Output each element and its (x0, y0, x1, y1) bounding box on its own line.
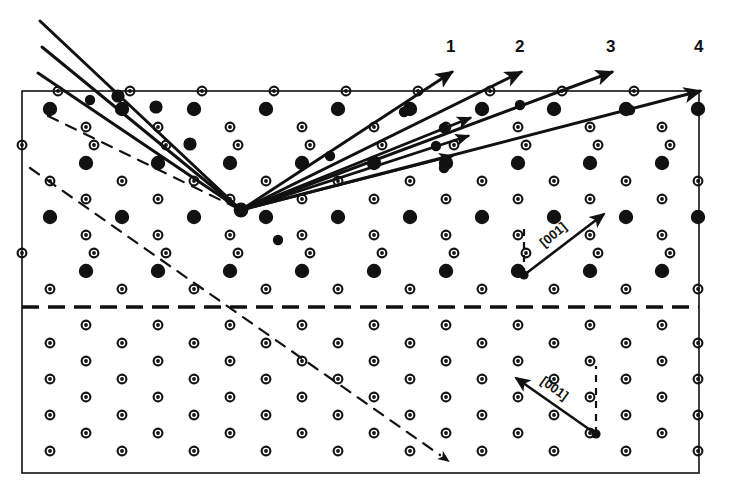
incident-beam-terminus-3 (183, 137, 196, 150)
atom-open-core (156, 359, 160, 363)
atom-open-core (516, 323, 520, 327)
atom-open-core (264, 449, 268, 453)
atom-open-core (452, 251, 456, 255)
atom-open-core (596, 251, 600, 255)
atom-open-core (668, 143, 672, 147)
atom-open-core (264, 413, 268, 417)
atom-open-core (588, 323, 592, 327)
dashed-trace-arrowhead (437, 451, 453, 466)
atom-open-core (228, 395, 232, 399)
atom-open-core (552, 287, 556, 291)
atom-open-core (444, 359, 448, 363)
atom-open-core (84, 359, 88, 363)
atom-open-core (120, 179, 124, 183)
atom-open-core (372, 431, 376, 435)
atom-open-core (624, 413, 628, 417)
diffracted-beam-1-label: 1 (446, 37, 455, 57)
atom-open-core (300, 323, 304, 327)
atom-open-core (336, 377, 340, 381)
atom-filled (223, 264, 237, 278)
atom-open-core (236, 143, 240, 147)
atom-open-core (552, 179, 556, 183)
atom-open-core (84, 233, 88, 237)
atom-open-core (588, 125, 592, 129)
atom-open-core (308, 143, 312, 147)
atom-filled (691, 210, 705, 224)
atom-open-core (516, 359, 520, 363)
atom-open-core (444, 395, 448, 399)
atom-filled (475, 210, 489, 224)
atom-open-core (120, 341, 124, 345)
atom-filled (259, 102, 273, 116)
atom-open-core (300, 197, 304, 201)
atom-open-core (480, 341, 484, 345)
atom-filled (655, 264, 669, 278)
atom-filled (115, 210, 129, 224)
beam-paths (38, 21, 700, 217)
atom-open-core (264, 179, 268, 183)
atom-open-core (588, 359, 592, 363)
atom-open-core (588, 197, 592, 201)
atom-filled (547, 102, 561, 116)
atom-filled (583, 156, 597, 170)
atom-filled (583, 264, 597, 278)
atom-open-core (372, 323, 376, 327)
atom-filled (79, 264, 93, 278)
incident-beam-c (38, 73, 241, 210)
atom-open-core (300, 431, 304, 435)
atom-filled (259, 210, 273, 224)
atom-open-core (300, 395, 304, 399)
atom-open-core (48, 413, 52, 417)
atom-open-core (92, 143, 96, 147)
atom-filled (367, 264, 381, 278)
atom-open-core (480, 449, 484, 453)
atom-open-core (408, 377, 412, 381)
atom-open-core (156, 323, 160, 327)
atom-filled (655, 156, 669, 170)
beam-tick-3 (515, 100, 525, 110)
incident-beam-terminus-1 (111, 89, 124, 102)
atom-open-core (480, 179, 484, 183)
beam-tick-2 (399, 107, 409, 117)
atom-filled (331, 210, 345, 224)
atom-open-core (48, 341, 52, 345)
atom-filled (403, 210, 417, 224)
atom-open-core (552, 413, 556, 417)
diffracted-beam-3 (241, 72, 612, 210)
atom-open-core (120, 449, 124, 453)
atom-open-core (624, 449, 628, 453)
atom-open-core (48, 377, 52, 381)
diffracted-beam-3-label: 3 (606, 37, 615, 57)
beam-convergence-point (234, 203, 249, 218)
lattice-diffraction-diagram: [001][001] (0, 0, 729, 489)
atom-open-core (336, 449, 340, 453)
atom-open-core (624, 179, 628, 183)
atom-open-core (228, 359, 232, 363)
atom-open-core (156, 125, 160, 129)
atom-filled (223, 156, 237, 170)
atom-open-core (408, 341, 412, 345)
atom-open-core (300, 125, 304, 129)
atom-open-core (444, 233, 448, 237)
dashed-twin-traces (30, 116, 453, 466)
atom-open-core (624, 377, 628, 381)
atom-open-core (308, 251, 312, 255)
atom-filled (331, 102, 345, 116)
atom-open-core (588, 395, 592, 399)
atom-open-core (192, 449, 196, 453)
figure-canvas: [001][001] 1234 (0, 0, 729, 489)
atom-open-core (156, 233, 160, 237)
beam-tick-4 (439, 123, 449, 133)
atom-open-core (516, 431, 520, 435)
atom-open-core (408, 179, 412, 183)
atom-open-core (660, 233, 664, 237)
atom-open-core (84, 197, 88, 201)
atom-open-core (660, 395, 664, 399)
atom-open-core (228, 125, 232, 129)
atom-open-core (48, 287, 52, 291)
atom-open-core (552, 341, 556, 345)
atom-filled (619, 210, 633, 224)
atom-open-core (372, 197, 376, 201)
atom-open-core (84, 323, 88, 327)
atom-open-core (372, 395, 376, 399)
